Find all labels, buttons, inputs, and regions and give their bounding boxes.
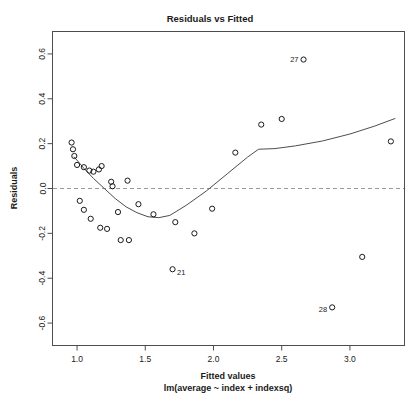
y-tick-label: -0.6 [38, 315, 48, 330]
x-axis-sublabel: lm(average ~ index + indexsq) [164, 383, 293, 393]
chart-background [0, 0, 420, 411]
y-tick-label: -0.4 [38, 271, 48, 286]
x-axis-label: Fitted values [200, 371, 255, 381]
y-tick-label: 0.0 [38, 182, 48, 194]
y-tick-label: 0.4 [38, 93, 48, 105]
outlier-label: 21 [177, 268, 185, 277]
outlier-label: 28 [319, 305, 327, 314]
x-tick-label: 1.5 [139, 354, 151, 364]
chart-title: Residuals vs Fitted [167, 13, 254, 24]
x-tick-label: 2.0 [208, 354, 220, 364]
x-tick-label: 3.0 [344, 354, 356, 364]
y-tick-label: 0.2 [38, 137, 48, 149]
y-axis-label: Residuals [9, 167, 19, 210]
chart-canvas: Residuals vs Fitted -0.6-0.4-0.20.00.20.… [0, 0, 420, 411]
outlier-label: 27 [290, 55, 298, 64]
x-tick-label: 1.0 [71, 354, 83, 364]
residuals-vs-fitted-plot: Residuals vs Fitted -0.6-0.4-0.20.00.20.… [0, 0, 420, 411]
y-tick-label: -0.2 [38, 226, 48, 241]
x-tick-label: 2.5 [276, 354, 288, 364]
y-tick-label: 0.6 [38, 48, 48, 60]
